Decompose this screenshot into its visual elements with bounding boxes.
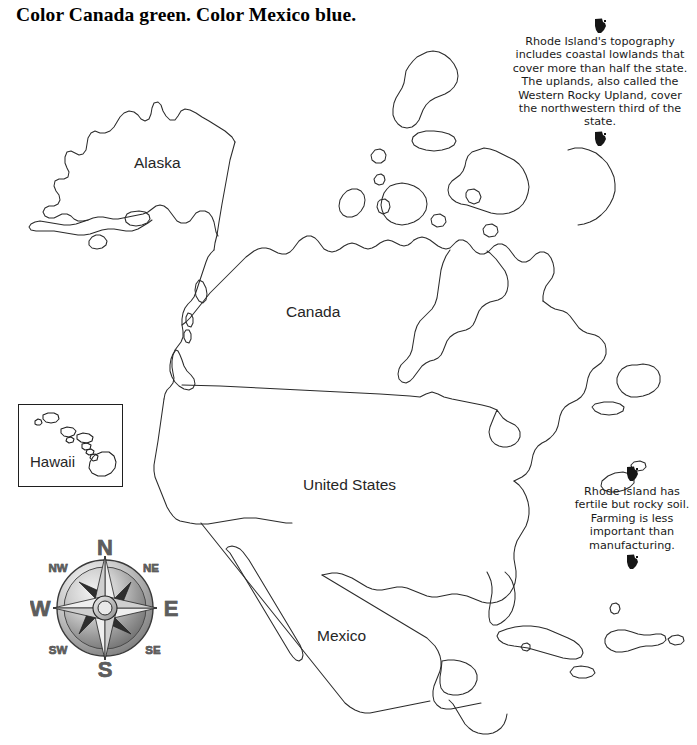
- rhode-island-note-bottom-text: Rhode Island has fertile but rocky soil.…: [572, 485, 692, 552]
- compass-label-south: S: [98, 657, 113, 681]
- map-label-united-states: United States: [303, 476, 396, 494]
- arctic-islet-4: [466, 189, 481, 204]
- compass-hub-inner: [98, 601, 112, 615]
- newfoundland: [617, 364, 660, 397]
- us-canada-border: [182, 385, 497, 410]
- great-lakes: [489, 410, 520, 447]
- hudson-bay: [398, 250, 508, 383]
- cuba: [497, 626, 583, 659]
- melville-island: [412, 131, 456, 151]
- compass-label-southwest: SW: [49, 644, 68, 656]
- arctic-islet-1: [371, 149, 386, 163]
- rhode-island-icon: [572, 466, 692, 482]
- jamaica: [570, 666, 595, 678]
- map-label-alaska: Alaska: [134, 154, 181, 172]
- arctic-islet-6: [483, 224, 498, 237]
- banks-island: [339, 189, 365, 217]
- compass-label-northwest: NW: [48, 562, 67, 574]
- compass-label-southeast: SE: [145, 644, 161, 656]
- map-label-canada: Canada: [286, 303, 340, 321]
- alaska-island-group: [125, 211, 150, 226]
- compass-label-northeast: NE: [143, 562, 159, 574]
- arctic-islet-3: [377, 199, 390, 214]
- anticosti-island: [592, 402, 624, 415]
- greenland-edge: [568, 148, 615, 225]
- victoria-island: [381, 183, 427, 225]
- kodiak-island: [89, 235, 107, 249]
- central-america: [449, 700, 507, 734]
- compass-label-east: E: [164, 596, 179, 621]
- rhode-island-icon: [508, 18, 692, 34]
- rhode-island-note-top: Rhode Island's topography includes coast…: [508, 18, 692, 147]
- arctic-islet-2: [374, 174, 385, 185]
- compass-label-west: W: [30, 596, 51, 621]
- baja-california: [226, 546, 303, 661]
- map-label-mexico: Mexico: [317, 627, 366, 645]
- us-east-coast: [322, 481, 529, 603]
- canada-arctic-coast: [414, 237, 554, 301]
- hispaniola: [605, 630, 666, 652]
- arctic-islet-5: [431, 214, 446, 227]
- alaska-aleutian-peninsula: [29, 220, 152, 235]
- inset-label-hawaii: Hawaii: [30, 453, 75, 470]
- us-west-coast: [154, 399, 292, 524]
- florida-peninsula: [487, 572, 515, 625]
- hawaii-inset-box: Hawaii: [18, 404, 123, 487]
- rhode-island-note-bottom: Rhode Island has fertile but rocky soil.…: [572, 466, 692, 570]
- ellesmere-island: [393, 51, 458, 128]
- mexico-west-coast: [201, 523, 430, 713]
- bahamas-islet: [610, 603, 620, 614]
- rhode-island-icon: [508, 131, 692, 147]
- alaska-canada-border: [214, 142, 235, 250]
- vancouver-island: [170, 350, 195, 390]
- panhandle-island-3: [184, 330, 191, 343]
- baffin-island: [448, 148, 529, 214]
- rhode-island-note-top-text: Rhode Island's topography includes coast…: [508, 35, 692, 129]
- rhode-island-icon: [572, 554, 692, 570]
- yucatan-peninsula: [440, 660, 477, 695]
- compass-label-north: N: [97, 536, 113, 560]
- compass-rose: N S E W NE NW SE SW: [30, 536, 180, 681]
- puerto-rico: [668, 635, 684, 645]
- labrador-coast: [514, 301, 606, 481]
- hawaii-islands-outline: [19, 405, 122, 486]
